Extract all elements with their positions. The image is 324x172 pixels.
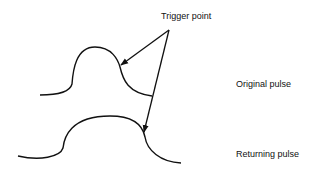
returning-pulse-waveform bbox=[18, 116, 181, 163]
returning-pulse-label: Returning pulse bbox=[236, 149, 299, 159]
original-pulse-label: Original pulse bbox=[236, 79, 291, 89]
trigger-point-label: Trigger point bbox=[161, 11, 211, 21]
